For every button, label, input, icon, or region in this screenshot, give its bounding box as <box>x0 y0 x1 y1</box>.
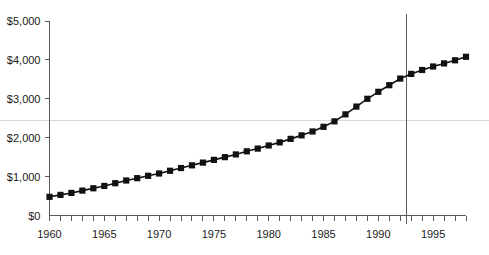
data-point-marker <box>408 71 414 77</box>
data-point-marker <box>57 192 63 198</box>
data-point-marker <box>288 136 294 142</box>
y-tick-label: $3,000 <box>7 93 41 105</box>
data-point-marker <box>178 165 184 171</box>
line-chart: $0$1,000$2,000$3,000$4,000$5,000 1960196… <box>0 0 489 255</box>
data-point-marker <box>364 96 370 102</box>
data-point-marker <box>441 60 447 66</box>
y-tick-label: $1,000 <box>7 171 41 183</box>
data-point-marker <box>90 185 96 191</box>
data-point-marker <box>397 75 403 81</box>
data-point-marker <box>320 124 326 130</box>
data-point-marker <box>419 67 425 73</box>
data-point-marker <box>200 160 206 166</box>
data-point-marker <box>244 148 250 154</box>
data-point-marker <box>68 190 74 196</box>
y-tick-label: $0 <box>28 210 40 222</box>
x-tick-label: 1985 <box>311 228 335 240</box>
y-axis: $0$1,000$2,000$3,000$4,000$5,000 <box>7 15 50 222</box>
data-point-marker <box>342 111 348 117</box>
data-point-marker <box>353 103 359 109</box>
data-point-marker <box>375 89 381 95</box>
data-point-marker <box>101 183 107 189</box>
x-tick-label: 1970 <box>147 228 171 240</box>
data-point-marker <box>112 180 118 186</box>
data-point-marker <box>463 54 469 60</box>
data-point-marker <box>222 154 228 160</box>
data-point-marker <box>298 132 304 138</box>
data-point-marker <box>79 188 85 194</box>
data-point-marker <box>309 128 315 134</box>
series-line <box>50 57 467 197</box>
data-point-marker <box>255 145 261 151</box>
x-tick-label: 1960 <box>37 228 61 240</box>
data-point-marker <box>430 63 436 69</box>
y-tick-label: $4,000 <box>7 54 41 66</box>
data-point-marker <box>46 194 52 200</box>
data-point-marker <box>266 142 272 148</box>
chart-container: $0$1,000$2,000$3,000$4,000$5,000 1960196… <box>0 0 489 255</box>
x-axis: 19601965197019751980198519901995 <box>37 216 466 240</box>
data-point-marker <box>331 118 337 124</box>
x-tick-label: 1980 <box>256 228 280 240</box>
data-point-marker <box>134 175 140 181</box>
x-tick-label: 1990 <box>366 228 390 240</box>
y-tick-label: $2,000 <box>7 132 41 144</box>
data-point-marker <box>452 57 458 63</box>
data-point-marker <box>156 170 162 176</box>
data-point-marker <box>145 173 151 179</box>
data-point-marker <box>189 162 195 168</box>
x-tick-label: 1995 <box>421 228 445 240</box>
data-series <box>46 54 469 200</box>
data-point-marker <box>277 139 283 145</box>
data-point-marker <box>167 168 173 174</box>
data-point-marker <box>123 177 129 183</box>
x-tick-label: 1965 <box>92 228 116 240</box>
data-point-marker <box>233 151 239 157</box>
x-tick-label: 1975 <box>202 228 226 240</box>
data-point-marker <box>211 157 217 163</box>
y-tick-label: $5,000 <box>7 15 41 27</box>
data-point-marker <box>386 82 392 88</box>
